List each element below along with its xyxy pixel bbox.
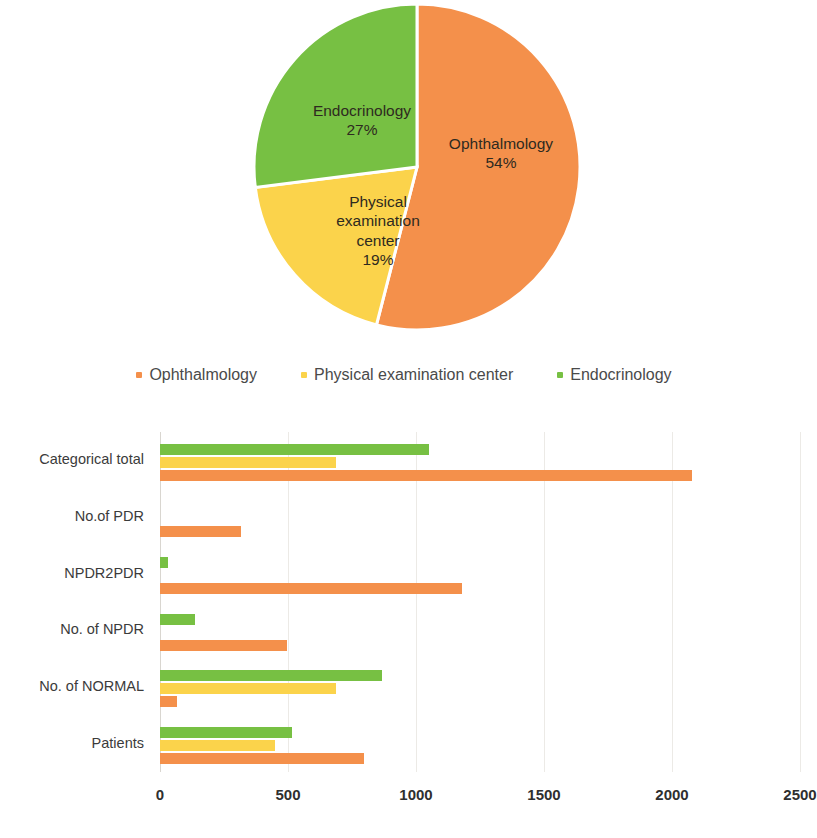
legend-swatch-icon [301,372,307,378]
x-axis-tick-label: 0 [156,786,164,803]
bar-category-label-npdr2pdr: NPDR2PDR [0,565,144,581]
bar-ophthalmology [160,470,692,481]
bar-endocrinology [160,670,382,681]
bar-endocrinology [160,557,168,568]
bar-group-npdr2pdr [160,545,800,602]
x-axis-tick-label: 1500 [527,786,560,803]
legend-item-endocrinology[interactable]: Endocrinology [557,366,671,384]
bar-physical-examination-center [160,740,275,751]
bar-chart-plot-area [160,432,800,772]
bar-group-patients [160,715,800,772]
x-axis-tick-label: 1000 [399,786,432,803]
bar-category-label-no-of-npdr: No. of NPDR [0,621,144,637]
bar-chart-value-axis: 05001000150020002500 [0,772,808,812]
pie-slice-endocrinology [254,4,417,187]
chart-legend: OphthalmologyPhysical examination center… [0,358,808,392]
bar-physical-examination-center [160,457,336,468]
bar-group-no-of-normal [160,659,800,716]
bar-group-no-of-pdr [160,489,800,546]
bar-category-label-categorical-total: Categorical total [0,451,144,467]
x-axis-tick-label: 2000 [655,786,688,803]
legend-item-ophthalmology[interactable]: Ophthalmology [136,366,257,384]
gridline [800,432,801,772]
bar-chart-section: Categorical totalNo.of PDRNPDR2PDRNo. of… [0,432,808,838]
legend-item-physical-examination-center[interactable]: Physical examination center [301,366,513,384]
bar-ophthalmology [160,583,462,594]
legend-item-label: Endocrinology [570,366,671,384]
bar-endocrinology [160,727,292,738]
bar-physical-examination-center [160,683,336,694]
bar-category-label-patients: Patients [0,735,144,751]
bar-ophthalmology [160,640,287,651]
bar-ophthalmology [160,753,364,764]
bar-chart-category-axis: Categorical totalNo.of PDRNPDR2PDRNo. of… [0,432,152,772]
bar-endocrinology [160,444,429,455]
bar-category-label-no-of-pdr: No.of PDR [0,508,144,524]
legend-item-label: Ophthalmology [149,366,257,384]
legend-swatch-icon [136,372,142,378]
bar-ophthalmology [160,696,177,707]
bar-group-categorical-total [160,432,800,489]
legend-item-label: Physical examination center [314,366,513,384]
bar-endocrinology [160,614,195,625]
x-axis-tick-label: 500 [275,786,300,803]
bar-ophthalmology [160,526,241,537]
x-axis-tick-label: 2500 [783,786,816,803]
pie-chart: Ophthalmology 54% Endocrinology 27% Phys… [252,2,582,332]
bar-category-label-no-of-normal: No. of NORMAL [0,678,144,694]
legend-swatch-icon [557,372,563,378]
bar-group-no-of-npdr [160,602,800,659]
pie-chart-svg [252,2,582,332]
pie-chart-section: Ophthalmology 54% Endocrinology 27% Phys… [0,0,808,345]
